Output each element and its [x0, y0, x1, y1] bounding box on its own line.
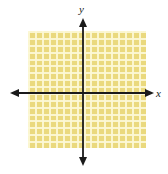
y-axis-bottom-arrowhead: [79, 157, 87, 166]
x-axis-label: x: [156, 88, 161, 99]
axes-group: [0, 0, 168, 174]
x-axis-right-arrowhead: [145, 89, 154, 97]
y-axis-label: y: [79, 4, 84, 15]
coordinate-plane-figure: y x: [0, 0, 168, 174]
y-axis-top-arrowhead: [79, 18, 87, 27]
x-axis-left-arrowhead: [10, 89, 19, 97]
